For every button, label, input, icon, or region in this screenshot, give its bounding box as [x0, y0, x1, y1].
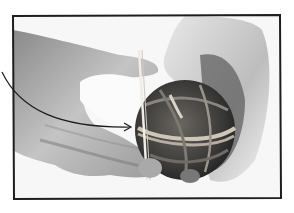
photo	[13, 16, 280, 199]
photo-scene	[0, 0, 294, 213]
